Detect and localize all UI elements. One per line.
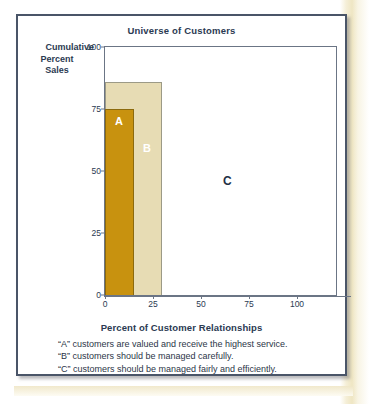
x-tick-label-25: 25 [138,299,168,309]
x-tick-label-75: 75 [234,299,264,309]
x-tick-label-50: 50 [186,299,216,309]
y-axis-title-line-3: Sales [24,65,94,77]
x-tick-label-100: 100 [282,299,312,309]
figure-frame: Universe of Customers Cumulative Percent… [16,14,347,376]
x-tick-label-0: 0 [90,299,120,309]
chart-title: Universe of Customers [18,25,345,36]
footnotes: “A” customers are valued and receive the… [58,338,327,375]
plot-area: 0 25 50 75 100 0 25 50 75 100 A [104,46,337,296]
page-background: Universe of Customers Cumulative Percent… [0,0,369,404]
y-tick-label-25: 25 [61,228,101,238]
y-axis-title-line-2: Percent [24,54,94,66]
footnote-line-c: “C” customers should be managed fairly a… [58,363,327,375]
region-label-c: C [223,174,232,188]
y-tick-label-50: 50 [61,166,101,176]
x-axis-title: Percent of Customer Relationships [18,322,345,333]
bar-label-a: A [115,115,123,127]
bar-segment-a [105,109,134,295]
y-tick-label-100: 100 [61,42,101,52]
x-axis-line [104,296,351,297]
footnote-line-a: “A” customers are valued and receive the… [58,338,327,350]
y-tick-label-75: 75 [61,104,101,114]
y-tick-mark-100 [101,47,105,48]
footnote-line-b: “B” customers should be managed carefull… [58,350,327,362]
bar-label-b: B [143,142,151,154]
